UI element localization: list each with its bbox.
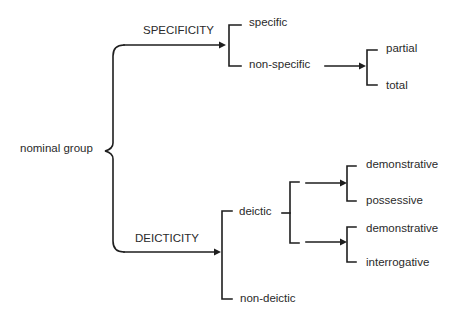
arrowhead-icon	[219, 42, 226, 49]
arrowhead-icon	[214, 249, 221, 256]
arrowhead-icon	[340, 239, 347, 246]
root-brace-icon	[105, 45, 124, 252]
non-specific-bracket-icon	[367, 50, 377, 85]
deicticity-bracket-icon	[222, 211, 232, 299]
option-demonstrative-1: demonstrative	[366, 158, 438, 170]
deictic-brace-icon	[290, 182, 299, 243]
option-deictic: deictic	[239, 205, 272, 217]
option-interrogative: interrogative	[366, 256, 429, 268]
option-demonstrative-2: demonstrative	[366, 222, 438, 234]
option-non-deictic: non-deictic	[240, 292, 296, 304]
option-total: total	[386, 79, 408, 91]
system-label-deicticity: DEICTICITY	[135, 232, 199, 244]
system-network-diagram: nominal group SPECIFICITY specific non-s…	[0, 0, 461, 314]
root-label-nominal-group: nominal group	[20, 142, 93, 154]
option-possessive: possessive	[366, 194, 423, 206]
system-label-specificity: SPECIFICITY	[143, 24, 214, 36]
specificity-bracket-icon	[229, 25, 241, 66]
arrowhead-icon	[359, 63, 366, 70]
option-non-specific: non-specific	[249, 58, 311, 70]
arrowhead-icon	[340, 180, 347, 187]
option-partial: partial	[386, 42, 417, 54]
deictic-lower-bracket-icon	[347, 227, 356, 262]
deictic-upper-bracket-icon	[347, 166, 356, 201]
option-specific: specific	[249, 16, 288, 28]
